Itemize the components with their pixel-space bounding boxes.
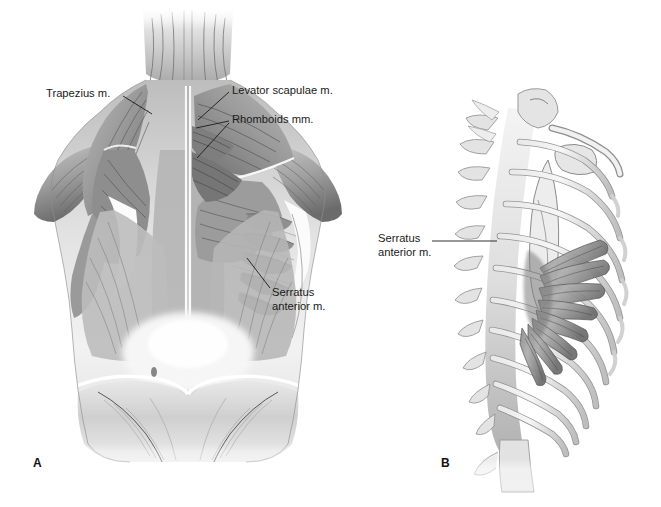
panel-label-b: B: [441, 456, 450, 470]
callout-levator-scapulae: Levator scapulae m.: [232, 84, 333, 98]
psis-marker: [151, 367, 157, 377]
callout-serratus-anterior-panel-a: Serratus anterior m.: [272, 286, 325, 313]
neck-top-fade: [138, 4, 238, 30]
callout-serratus-anterior-panel-b: Serratus anterior m.: [378, 232, 431, 259]
anatomical-plate: [0, 0, 661, 507]
callout-rhomboids: Rhomboids mm.: [232, 113, 313, 127]
lumbar-fascia-core: [148, 320, 228, 368]
callout-trapezius: Trapezius m.: [46, 87, 110, 101]
panel-a-bottom-fade: [60, 448, 320, 472]
thoracolumbar-fascia: [122, 312, 254, 392]
panel-label-a: A: [33, 456, 42, 470]
panel-b-bottom-fade: [440, 464, 640, 494]
